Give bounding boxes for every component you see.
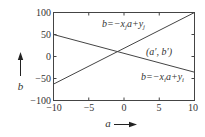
xtick-neg5: −5 bbox=[84, 102, 95, 113]
y-tick-labels: 100 50 0 −50 −100 bbox=[30, 7, 51, 106]
y-axis-arrow-icon bbox=[18, 52, 23, 76]
ytick-50: 50 bbox=[41, 29, 51, 40]
line-i bbox=[54, 35, 195, 73]
label-intersection: (a′, b′) bbox=[146, 46, 173, 58]
x-axis-label: a bbox=[105, 117, 111, 129]
x-axis-arrow-icon bbox=[114, 122, 137, 127]
label-line-i: b=−xia+yi bbox=[141, 71, 184, 84]
xtick-5: 5 bbox=[157, 102, 162, 113]
ytick-100: 100 bbox=[36, 7, 51, 18]
ytick-0: 0 bbox=[46, 51, 51, 62]
ytick-neg50: −50 bbox=[35, 73, 51, 84]
xtick-10: 10 bbox=[188, 102, 198, 113]
xtick-neg10: −10 bbox=[46, 102, 62, 113]
xtick-0: 0 bbox=[122, 102, 127, 113]
y-axis-label: b bbox=[18, 80, 24, 92]
x-tick-labels: −10 −5 0 5 10 bbox=[46, 102, 198, 113]
label-line-j: b=−xja+yj bbox=[102, 18, 145, 31]
chart: 100 50 0 −50 −100 −10 −5 0 5 10 b=−xja+y… bbox=[0, 0, 205, 137]
